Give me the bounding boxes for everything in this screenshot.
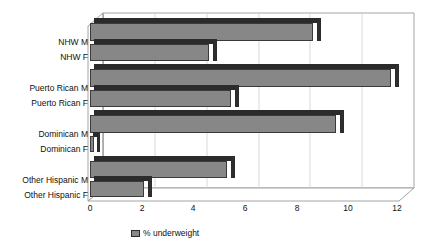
xtick-label-12: 12 xyxy=(387,203,407,213)
chart-legend: % underweight xyxy=(131,229,199,238)
xtick-label-0: 0 xyxy=(80,203,100,213)
xtick-label-2: 2 xyxy=(132,203,152,213)
xtick-label-8: 8 xyxy=(287,203,307,213)
legend-color-swatch xyxy=(131,230,140,237)
xtick-label-10: 10 xyxy=(338,203,358,213)
legend-label-underweight: % underweight xyxy=(143,229,199,238)
chart-container: NHW M NHW F Puerto Rican M Puerto Rican … xyxy=(0,0,425,249)
xtick-label-4: 4 xyxy=(183,203,203,213)
value-axis-labels: 0 2 4 6 8 10 12 xyxy=(0,0,425,249)
xtick-label-6: 6 xyxy=(235,203,255,213)
